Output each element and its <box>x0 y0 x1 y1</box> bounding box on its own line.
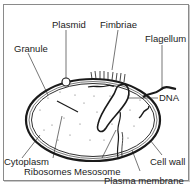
plasma-membrane <box>32 84 155 157</box>
label-plasmid: Plasmid <box>52 20 86 30</box>
label-ribosomes: Ribosomes <box>24 167 72 177</box>
label-plasma-membrane: Plasma membrane <box>104 176 184 186</box>
mesosome <box>117 112 120 158</box>
label-flagellum: Flagellum <box>145 34 186 44</box>
cytoplasm-dots <box>39 91 140 140</box>
label-granule: Granule <box>14 44 48 54</box>
label-dna: DNA <box>159 93 179 103</box>
label-fimbriae: Fimbriae <box>100 20 137 30</box>
ribosome-streak <box>57 101 78 112</box>
label-cell-wall: Cell wall <box>150 157 185 167</box>
granule-squiggle <box>88 85 114 87</box>
plasmid-ring <box>62 78 70 86</box>
granule-small <box>139 106 149 118</box>
dna-nucleoid <box>98 84 129 131</box>
